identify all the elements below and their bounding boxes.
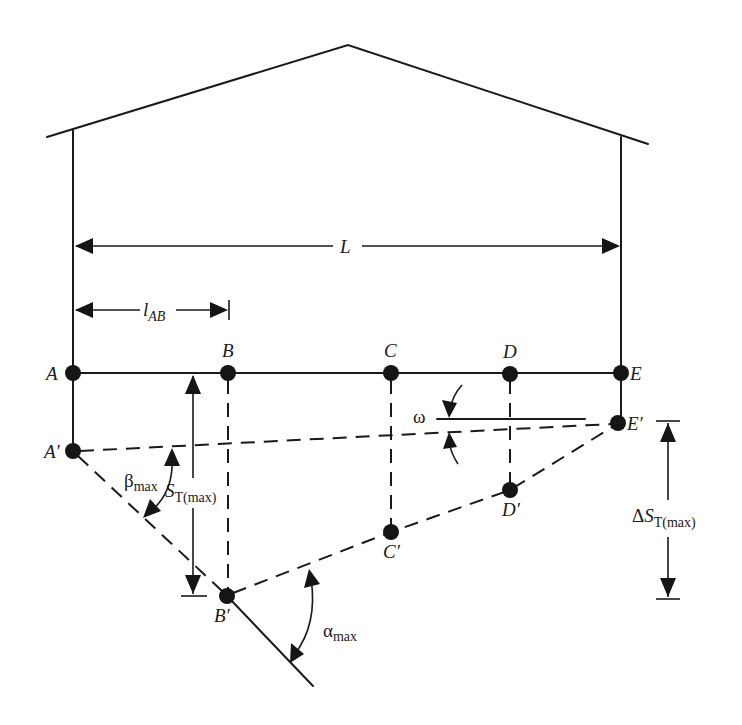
arrowhead-down-icon [185,575,201,594]
chord-a-prime-e-prime [80,424,612,451]
node-c-prime [383,524,399,540]
label-d: D [502,341,517,362]
span-l-dimension: L [75,236,620,257]
span-lab-label: lAB [143,299,166,324]
alpha-angle-marker: αmax [290,569,357,663]
label-d-prime: D′ [501,499,521,520]
arrowhead-up-icon [304,569,320,588]
arrowhead-left-icon [75,302,93,318]
node-b [220,365,236,381]
label-c-prime: C′ [383,541,401,562]
span-l-label: L [339,236,351,257]
arrowhead-down-icon [660,578,676,597]
arrowhead-up-icon [185,375,201,394]
arrowhead-up-icon [443,432,457,449]
max-settlement-label: ST(max) [165,480,217,506]
arrowhead-down-icon [143,499,161,518]
alpha-label: αmax [323,620,357,644]
roof-outline [47,45,648,144]
label-b: B [222,340,234,361]
max-settlement-dimension: ST(max) [165,375,217,596]
label-e: E [629,363,642,384]
node-e-prime [610,415,626,431]
omega-label: ω [413,406,426,427]
settled-segment-a-b [78,456,222,591]
node-d [502,366,518,382]
arrowhead-up-icon [660,423,676,442]
settlement-diagram: L lAB ω ST(max) [0,0,742,725]
arrowhead-down-icon [442,400,457,418]
label-e-prime: E′ [626,413,644,434]
differential-settlement-label: ΔST(max) [632,505,696,531]
label-a: A [44,363,58,384]
arrowhead-right-icon [602,238,620,254]
arrowhead-left-icon [75,238,93,254]
arrowhead-up-icon [164,448,180,466]
label-a-prime: A′ [42,441,61,462]
label-b-prime: B′ [214,605,231,626]
node-b-prime [219,588,235,604]
extension-line-b-prime [229,598,313,686]
node-a [65,365,81,381]
span-lab-dimension: lAB [75,299,229,324]
node-c [383,365,399,381]
arrowhead-down-icon [290,643,304,663]
differential-settlement-dimension: ΔST(max) [632,421,696,599]
node-e [613,365,629,381]
settled-segment-b-e [233,426,614,593]
label-c: C [384,340,397,361]
node-a-prime [65,443,81,459]
omega-angle-marker: ω [413,385,462,464]
node-d-prime [502,482,518,498]
arrowhead-right-icon [210,302,228,318]
beta-label: βmax [124,470,158,494]
